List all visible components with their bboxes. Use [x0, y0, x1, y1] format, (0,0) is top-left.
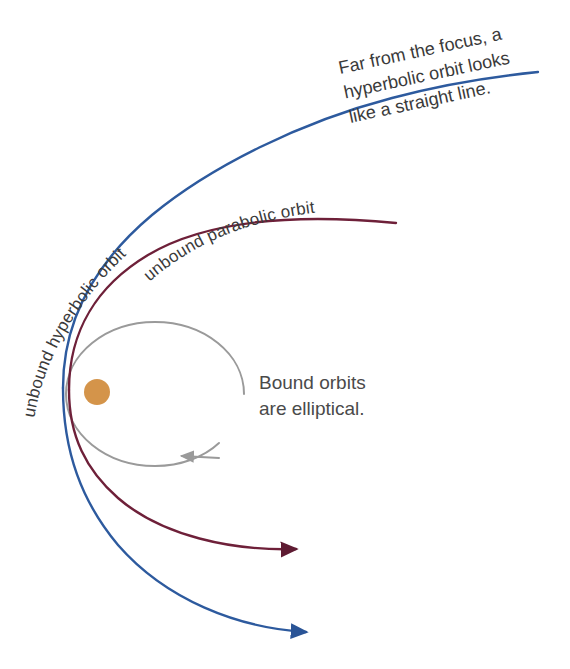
- orbit-diagram: unbound hyperbolic orbit unbound parabol…: [0, 0, 570, 669]
- bound-orbits-line-1: Bound orbits: [259, 372, 366, 393]
- callout-straight-line-note: Far from the focus, a hyperbolic orbit l…: [337, 23, 517, 127]
- elliptical-orbit-direction-arrow: [182, 456, 219, 458]
- focus-body-icon: [84, 379, 110, 405]
- diagram-canvas: unbound hyperbolic orbit unbound parabol…: [0, 0, 570, 669]
- callout-bound-orbits: Bound orbits are elliptical.: [259, 372, 366, 419]
- label-unbound-parabolic-orbit-text: unbound parabolic orbit: [140, 198, 316, 285]
- bound-orbits-line-2: are elliptical.: [259, 398, 365, 419]
- label-unbound-parabolic-orbit: unbound parabolic orbit: [140, 198, 316, 285]
- hyperbolic-orbit-group: [63, 72, 538, 632]
- hyperbolic-orbit-curve-lower: [63, 388, 306, 632]
- parabolic-orbit-curve-upper: [69, 219, 396, 390]
- hyperbolic-orbit-curve-upper: [63, 72, 538, 388]
